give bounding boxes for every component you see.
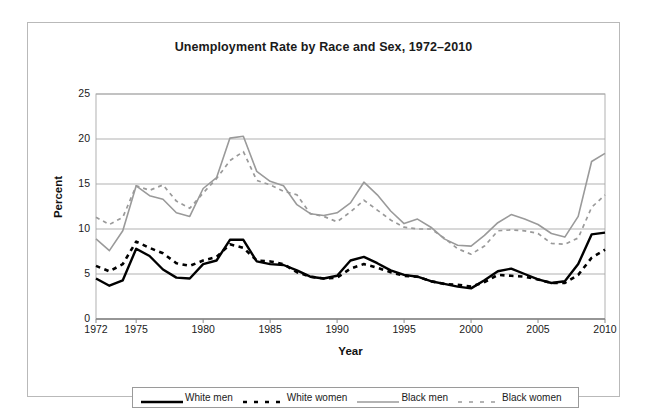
y-axis-tick-label: 5 [64,268,90,279]
x-axis-tick-label: 1972 [76,324,116,335]
x-axis-tick-label: 2000 [451,324,491,335]
x-axis-tick-label: 1975 [116,324,156,335]
legend-label: White women [286,393,357,403]
legend-label: Black men [400,393,457,403]
x-axis-tick-label: 1995 [384,324,424,335]
y-axis-tick-label: 15 [64,178,90,189]
series-line-black-men [96,136,605,250]
series-line-white-men [96,233,605,289]
y-axis-tick-labels: 2520151050 [64,94,90,319]
y-axis-tick-label: 10 [64,223,90,234]
x-axis-tick-label: 1985 [250,324,290,335]
plot-area [96,94,605,319]
series-line-white-women [96,242,605,287]
legend-item-white-women: White women [242,393,357,403]
legend-item-black-men: Black men [356,393,457,403]
plot-lines [96,94,605,319]
x-axis-tick-label: 2005 [518,324,558,335]
legend-swatch-icon [242,393,286,403]
x-axis-tick-label: 1990 [317,324,357,335]
x-axis-tick-label: 2010 [585,324,625,335]
legend-item-white-men: White men [140,393,242,403]
legend-label: Black women [501,393,570,403]
plot-border [96,94,605,319]
y-axis-title: Percent [52,157,64,237]
y-axis-tick-label: 25 [64,88,90,99]
y-axis-tick-label: 20 [64,133,90,144]
chart-title: Unemployment Rate by Race and Sex, 1972–… [28,40,619,54]
legend-swatch-icon [457,393,501,403]
chart-legend: White menWhite womenBlack menBlack women [132,387,579,408]
chart-frame: Unemployment Rate by Race and Sex, 1972–… [27,22,620,397]
y-axis-tick-label: 0 [64,313,90,324]
legend-swatch-icon [356,393,400,403]
legend-swatch-icon [140,393,184,403]
x-axis-tick-labels: 197219751980198519901995200020052010 [96,324,605,340]
legend-item-black-women: Black women [457,393,570,403]
legend-label: White men [184,393,242,403]
x-axis-title: Year [96,345,605,357]
x-axis-tick-label: 1980 [183,324,223,335]
